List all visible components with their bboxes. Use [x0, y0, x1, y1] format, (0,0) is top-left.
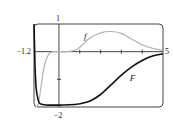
plot-frame [34, 24, 163, 107]
chart: 1 −2 −1.2 5 f F [0, 0, 173, 121]
y-bottom-tick-label: −2 [54, 111, 63, 120]
x-left-tick-label: −1.2 [16, 47, 31, 56]
axes [34, 24, 163, 107]
series-group [34, 24, 163, 107]
F-curve-label: F [129, 73, 136, 83]
x-right-tick-label: 5 [165, 47, 169, 56]
labels: 1 −2 −1.2 5 f F [16, 14, 169, 120]
series-F-line [34, 24, 163, 105]
y-top-tick-label: 1 [56, 14, 60, 23]
